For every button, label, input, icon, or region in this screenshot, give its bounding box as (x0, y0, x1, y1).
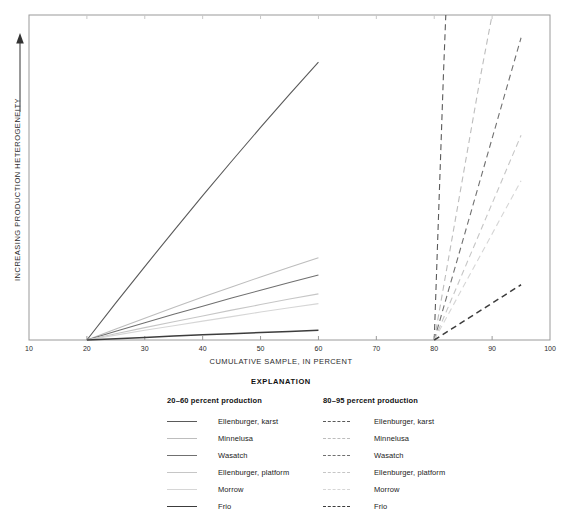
legend-item[interactable]: Minnelusa (167, 430, 289, 447)
legend-line-swatch (167, 469, 197, 477)
legend-item-label: Ellenburger, karst (374, 417, 434, 426)
x-tick-label: 80 (419, 345, 449, 352)
legend-item-label: Ellenburger, karst (218, 417, 278, 426)
x-tick-label: 40 (188, 345, 218, 352)
legend-line-swatch (323, 435, 353, 443)
plot-frame (29, 15, 550, 340)
series-line (434, 15, 446, 340)
series-line (434, 135, 521, 340)
x-tick-label: 10 (14, 345, 44, 352)
series-line (87, 62, 319, 340)
x-tick-label: 60 (303, 345, 333, 352)
legend: 20–60 percent production Ellenburger, ka… (0, 396, 562, 504)
legend-item-label: Wasatch (374, 451, 404, 460)
legend-column-80-95: 80–95 percent production Ellenburger, ka… (323, 396, 445, 513)
legend-item[interactable]: Minnelusa (323, 430, 445, 447)
legend-item[interactable]: Wasatch (323, 447, 445, 464)
legend-line-swatch (167, 435, 197, 443)
x-tick-label: 30 (130, 345, 160, 352)
legend-item-label: Minnelusa (218, 434, 253, 443)
x-axis-title: CUMULATIVE SAMPLE, IN PERCENT (0, 357, 562, 366)
legend-item-label: Wasatch (218, 451, 248, 460)
legend-column-20-60: 20–60 percent production Ellenburger, ka… (167, 396, 289, 513)
legend-item[interactable]: Frio (323, 498, 445, 513)
x-tick-label: 20 (72, 345, 102, 352)
series-line (87, 275, 319, 340)
series-line (434, 181, 521, 340)
legend-item-label: Ellenburger, platform (218, 468, 289, 477)
legend-item[interactable]: Ellenburger, platform (167, 464, 289, 481)
legend-line-swatch (323, 418, 353, 426)
y-axis-title: INCREASING PRODUCTION HETEROGENEITY (13, 95, 22, 285)
data-series-layer (87, 15, 521, 340)
x-axis-ticks (87, 15, 492, 340)
series-line (434, 38, 521, 340)
legend-item[interactable]: Ellenburger, platform (323, 464, 445, 481)
x-tick-label: 90 (477, 345, 507, 352)
legend-entries: Ellenburger, karstMinnelusaWasatchEllenb… (323, 413, 445, 513)
legend-line-swatch (167, 486, 197, 494)
series-line (87, 258, 319, 340)
legend-line-swatch (323, 469, 353, 477)
x-tick-label: 70 (361, 345, 391, 352)
legend-line-swatch (167, 503, 197, 511)
legend-line-swatch (167, 452, 197, 460)
legend-item[interactable]: Wasatch (167, 447, 289, 464)
legend-item[interactable]: Morrow (323, 481, 445, 498)
legend-item[interactable]: Ellenburger, karst (167, 413, 289, 430)
series-line (87, 294, 319, 340)
series-line (434, 285, 521, 340)
legend-item[interactable]: Morrow (167, 481, 289, 498)
legend-item-label: Morrow (218, 485, 244, 494)
legend-line-swatch (323, 486, 353, 494)
legend-item[interactable]: Ellenburger, karst (323, 413, 445, 430)
x-tick-label: 50 (246, 345, 276, 352)
legend-item-label: Ellenburger, platform (374, 468, 445, 477)
legend-line-swatch (167, 418, 197, 426)
legend-column-heading: 80–95 percent production (323, 396, 445, 405)
legend-title: EXPLANATION (0, 377, 562, 386)
legend-line-swatch (323, 452, 353, 460)
legend-entries: Ellenburger, karstMinnelusaWasatchEllenb… (167, 413, 289, 513)
legend-column-heading: 20–60 percent production (167, 396, 289, 405)
legend-item[interactable]: Frio (167, 498, 289, 513)
legend-line-swatch (323, 503, 353, 511)
legend-item-label: Minnelusa (374, 434, 409, 443)
legend-item-label: Frio (218, 502, 231, 511)
series-line (434, 15, 492, 340)
x-tick-label: 100 (535, 345, 562, 352)
legend-item-label: Frio (374, 502, 387, 511)
legend-item-label: Morrow (374, 485, 400, 494)
